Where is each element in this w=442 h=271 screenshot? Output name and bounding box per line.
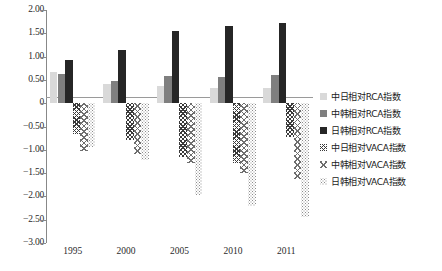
bar: [279, 23, 287, 104]
y-tick-label: 0.50: [28, 74, 44, 84]
bar: [248, 103, 256, 206]
y-tick-label: 2.00: [28, 4, 44, 14]
legend-swatch-icon: [320, 144, 327, 151]
legend-swatch-icon: [320, 127, 327, 134]
bar: [218, 77, 226, 103]
x-axis-label: 2011: [260, 246, 313, 256]
legend-label: 中日相对VACA指数: [331, 141, 406, 154]
bar: [301, 103, 309, 217]
bar: [286, 103, 294, 137]
bar: [172, 31, 180, 103]
bar: [240, 103, 248, 173]
y-tick: [41, 243, 46, 244]
chart-legend: 中日相对RCA指数中韩相对RCA指数日韩相对RCA指数中日相对VACA指数中韩相…: [320, 88, 440, 190]
bar: [164, 76, 172, 103]
bar: [187, 103, 195, 163]
y-tick-label: −2.00: [23, 190, 44, 200]
bar-group: [153, 10, 206, 243]
legend-label: 日韩相对VACA指数: [331, 175, 406, 188]
bar-group: [260, 10, 313, 243]
y-axis-tick-labels: 2.001.501.000.500−0.50−1.00−1.50−2.00−2.…: [0, 10, 44, 243]
bar: [50, 72, 58, 104]
plot-area: [46, 10, 313, 243]
bar: [271, 75, 279, 103]
y-tick-label: −0.50: [23, 121, 44, 131]
x-axis-category-labels: 19952000200520102011: [46, 246, 313, 262]
legend-swatch-icon: [320, 110, 327, 117]
y-tick-label: −1.00: [23, 144, 44, 154]
bar: [88, 103, 96, 147]
bar: [263, 88, 271, 103]
bar: [294, 103, 302, 178]
legend-item[interactable]: 中日相对VACA指数: [320, 139, 440, 156]
legend-swatch-icon: [320, 178, 327, 185]
y-tick-label: 1.50: [28, 27, 44, 37]
x-axis-label: 2000: [99, 246, 152, 256]
legend-item[interactable]: 中韩相对VACA指数: [320, 156, 440, 173]
bar: [126, 103, 134, 140]
bar: [118, 50, 126, 103]
bar-group: [99, 10, 152, 243]
y-tick-label: 1.00: [28, 51, 44, 61]
legend-swatch-icon: [320, 161, 327, 168]
y-tick-label: −2.50: [23, 214, 44, 224]
bar: [225, 26, 233, 103]
bar-chart: 2.001.501.000.500−0.50−1.00−1.50−2.00−2.…: [0, 0, 442, 271]
bar: [157, 86, 165, 103]
x-axis-label: 1995: [46, 246, 99, 256]
bar: [111, 81, 119, 103]
x-axis-label: 2005: [153, 246, 206, 256]
y-tick-label: −3.00: [23, 237, 44, 247]
x-axis-label: 2010: [206, 246, 259, 256]
legend-label: 中韩相对VACA指数: [331, 158, 406, 171]
bar: [65, 60, 73, 103]
legend-item[interactable]: 中韩相对RCA指数: [320, 105, 440, 122]
y-tick-label: 0: [39, 97, 44, 107]
legend-swatch-icon: [320, 93, 327, 100]
legend-item[interactable]: 日韩相对VACA指数: [320, 173, 440, 190]
y-tick-label: −1.50: [23, 167, 44, 177]
legend-item[interactable]: 日韩相对RCA指数: [320, 122, 440, 139]
bar: [233, 103, 241, 163]
legend-label: 日韩相对RCA指数: [331, 124, 401, 137]
bar: [179, 103, 187, 157]
bar: [80, 103, 88, 151]
bar: [195, 103, 203, 195]
bar: [58, 74, 66, 103]
bar: [141, 103, 149, 160]
bar: [103, 84, 111, 103]
bar-group: [206, 10, 259, 243]
legend-label: 中日相对RCA指数: [331, 90, 401, 103]
bar-group: [46, 10, 99, 243]
legend-item[interactable]: 中日相对RCA指数: [320, 88, 440, 105]
bar: [210, 88, 218, 103]
bar: [73, 103, 81, 134]
bar: [134, 103, 142, 154]
legend-label: 中韩相对RCA指数: [331, 107, 401, 120]
